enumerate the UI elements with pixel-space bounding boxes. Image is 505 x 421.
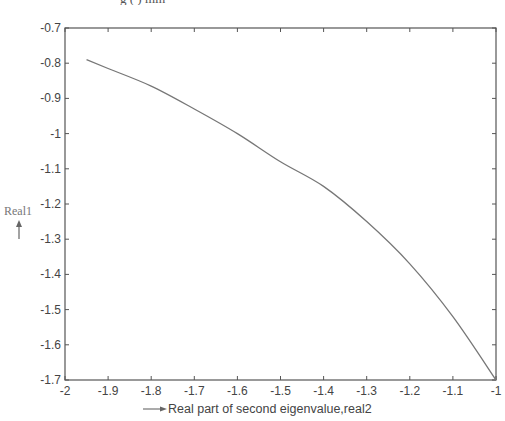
x-axis: -2-1.9-1.8-1.7-1.6-1.5-1.4-1.3-1.2-1.1-1 [60, 28, 502, 398]
x-tick-label: -1.8 [141, 384, 162, 398]
x-tick-label: -1.2 [399, 384, 420, 398]
x-tick-label: -1.1 [443, 384, 464, 398]
y-tick-label: -1.1 [40, 162, 61, 176]
y-tick-label: -1 [50, 127, 61, 141]
y-axis-label-group: Real1 [4, 204, 32, 239]
y-axis-label: Real1 [4, 204, 32, 218]
y-tick-label: -0.9 [40, 91, 61, 105]
line-chart: -2-1.9-1.8-1.7-1.6-1.5-1.4-1.3-1.2-1.1-1… [0, 0, 505, 421]
right-arrow-icon [143, 407, 167, 412]
y-tick-label: -1.6 [40, 338, 61, 352]
x-tick-label: -1.5 [270, 384, 291, 398]
data-line [87, 60, 496, 380]
x-tick-label: -2 [60, 384, 71, 398]
y-tick-label: -1.7 [40, 373, 61, 387]
x-tick-label: -1.4 [313, 384, 334, 398]
x-tick-label: -1.7 [184, 384, 205, 398]
x-tick-label: -1.9 [98, 384, 119, 398]
x-tick-label: -1 [491, 384, 502, 398]
x-axis-label-group: Real part of second eigenvalue,real2 [143, 402, 372, 416]
x-axis-label: Real part of second eigenvalue,real2 [168, 402, 372, 416]
y-tick-label: -1.3 [40, 232, 61, 246]
y-tick-label: -0.8 [40, 56, 61, 70]
up-arrow-icon [16, 220, 22, 239]
x-tick-label: -1.3 [356, 384, 377, 398]
x-tick-label: -1.6 [227, 384, 248, 398]
y-tick-label: -1.4 [40, 267, 61, 281]
y-tick-label: -1.5 [40, 303, 61, 317]
plot-frame [65, 28, 496, 380]
y-tick-label: -0.7 [40, 21, 61, 35]
y-axis: -0.7-0.8-0.9-1-1.1-1.2-1.3-1.4-1.5-1.6-1… [40, 21, 496, 387]
y-tick-label: -1.2 [40, 197, 61, 211]
